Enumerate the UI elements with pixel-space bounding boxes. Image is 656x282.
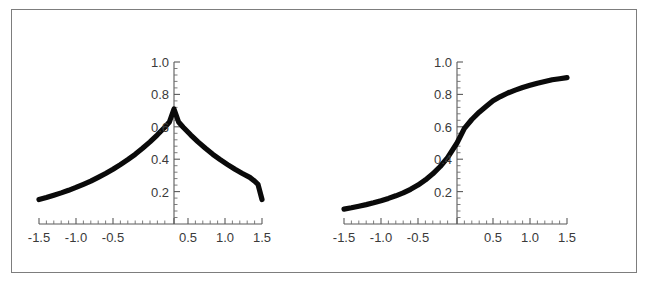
left-xtick-label-0-5: 0.5 [179, 230, 197, 245]
left-ytick-label-0-2: 0.2 [151, 185, 169, 200]
left-xtick-label-minus-1-0: -1.0 [65, 230, 87, 245]
figure-frame: 0.2 0.4 0.6 0.8 1.0 -1.5 -1.0 -0.5 0.5 1… [11, 9, 637, 273]
plot-right-svg: 0.2 0.4 0.6 0.8 1.0 -1.5 -1.0 -0.5 0.5 1… [317, 10, 630, 272]
right-x-major-ticks [344, 218, 567, 224]
left-ytick-label-0-4: 0.4 [151, 152, 169, 167]
right-xtick-label-0-5: 0.5 [484, 230, 502, 245]
right-xtick-label-minus-0-5: -0.5 [407, 230, 429, 245]
left-ytick-label-0-6: 0.6 [151, 120, 169, 135]
left-ytick-label-1-0: 1.0 [151, 55, 169, 70]
right-ytick-label-0-8: 0.8 [434, 87, 452, 102]
left-xtick-label-1-5: 1.5 [253, 230, 271, 245]
right-ytick-label-0-6: 0.6 [434, 120, 452, 135]
plot-left: 0.2 0.4 0.6 0.8 1.0 -1.5 -1.0 -0.5 0.5 1… [12, 10, 325, 272]
right-xtick-label-1-0: 1.0 [521, 230, 539, 245]
left-xtick-label-minus-1-5: -1.5 [28, 230, 50, 245]
left-x-major-ticks [39, 218, 262, 224]
plot-left-svg: 0.2 0.4 0.6 0.8 1.0 -1.5 -1.0 -0.5 0.5 1… [12, 10, 325, 272]
plot-right: 0.2 0.4 0.6 0.8 1.0 -1.5 -1.0 -0.5 0.5 1… [317, 10, 630, 272]
right-curve [344, 78, 567, 209]
right-xtick-label-minus-1-0: -1.0 [370, 230, 392, 245]
right-ytick-label-1-0: 1.0 [434, 55, 452, 70]
left-xtick-label-1-0: 1.0 [216, 230, 234, 245]
left-ytick-label-0-8: 0.8 [151, 87, 169, 102]
right-ytick-label-0-4: 0.4 [434, 152, 452, 167]
right-xtick-label-minus-1-5: -1.5 [333, 230, 355, 245]
left-xtick-label-minus-0-5: -0.5 [102, 230, 124, 245]
right-xtick-label-1-5: 1.5 [558, 230, 576, 245]
right-ytick-label-0-2: 0.2 [434, 185, 452, 200]
